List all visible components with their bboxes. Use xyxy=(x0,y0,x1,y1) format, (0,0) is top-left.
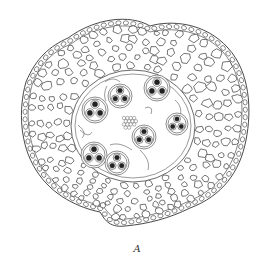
vascular-bundle xyxy=(108,84,132,108)
vascular-bundle xyxy=(132,125,156,149)
vascular-bundle xyxy=(166,113,188,135)
vascular-bundle xyxy=(105,151,129,175)
vascular-bundle xyxy=(82,97,108,123)
figure-caption: A xyxy=(0,243,274,254)
vascular-bundle xyxy=(81,142,107,168)
cross-section-drawing xyxy=(0,0,274,272)
vascular-bundle xyxy=(144,75,170,101)
